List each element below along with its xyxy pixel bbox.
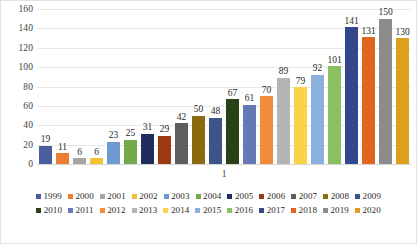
legend-label-2000: 2000 xyxy=(75,191,93,201)
legend-item-2016[interactable]: 2016 xyxy=(227,205,253,215)
bar-2004[interactable]: 25 xyxy=(122,9,139,164)
bar-2001[interactable]: 6 xyxy=(71,9,88,164)
legend-swatch-2002 xyxy=(132,194,137,199)
bar-rect-2004 xyxy=(124,140,136,164)
bar-value-2013: 89 xyxy=(279,67,289,77)
legend-item-1999[interactable]: 1999 xyxy=(36,191,62,201)
legend-label-2002: 2002 xyxy=(139,191,157,201)
legend-label-2009: 2009 xyxy=(363,191,381,201)
legend-swatch-2013 xyxy=(132,208,137,213)
bar-value-2019: 150 xyxy=(378,8,392,18)
legend-item-2002[interactable]: 2002 xyxy=(132,191,158,201)
legend-item-2015[interactable]: 2015 xyxy=(195,205,221,215)
legend-swatch-2015 xyxy=(195,208,200,213)
y-axis-tick-100: 100 xyxy=(18,62,33,72)
bar-value-2004: 25 xyxy=(126,129,136,139)
bar-2003[interactable]: 23 xyxy=(105,9,122,164)
bar-1999[interactable]: 19 xyxy=(37,9,54,164)
legend-label-1999: 1999 xyxy=(44,191,62,201)
bar-value-2015: 92 xyxy=(313,64,323,74)
bar-2019[interactable]: 150 xyxy=(377,9,394,164)
legend-item-2019[interactable]: 2019 xyxy=(323,205,349,215)
legend-item-2005[interactable]: 2005 xyxy=(227,191,253,201)
bar-rect-2012 xyxy=(260,96,272,164)
bar-2017[interactable]: 141 xyxy=(343,9,360,164)
legend-label-2014: 2014 xyxy=(171,205,189,215)
bar-2013[interactable]: 89 xyxy=(275,9,292,164)
legend-swatch-2012 xyxy=(100,208,105,213)
bar-rect-2016 xyxy=(328,66,340,164)
y-axis-tick-0: 0 xyxy=(28,159,33,169)
bar-rect-2010 xyxy=(226,99,238,164)
bar-2009[interactable]: 48 xyxy=(207,9,224,164)
bar-2015[interactable]: 92 xyxy=(309,9,326,164)
plot-area: 1911662325312942504867617089799210114113… xyxy=(37,9,411,164)
bar-2012[interactable]: 70 xyxy=(258,9,275,164)
bar-value-2008: 50 xyxy=(194,105,204,115)
legend-swatch-2003 xyxy=(164,194,169,199)
bar-value-2010: 67 xyxy=(228,89,238,99)
legend-item-2003[interactable]: 2003 xyxy=(164,191,190,201)
legend-swatch-2019 xyxy=(323,208,328,213)
legend-label-2008: 2008 xyxy=(331,191,349,201)
legend-item-2020[interactable]: 2020 xyxy=(355,205,381,215)
legend-item-2007[interactable]: 2007 xyxy=(291,191,317,201)
bar-rect-2018 xyxy=(362,37,374,164)
bar-value-2018: 131 xyxy=(361,27,375,37)
bar-2016[interactable]: 101 xyxy=(326,9,343,164)
legend-label-2004: 2004 xyxy=(203,191,221,201)
bar-value-2007: 42 xyxy=(177,113,187,123)
bar-2020[interactable]: 130 xyxy=(394,9,411,164)
legend-label-2019: 2019 xyxy=(331,205,349,215)
x-axis-label: 1 xyxy=(37,169,411,179)
legend-item-2017[interactable]: 2017 xyxy=(259,205,285,215)
bar-value-1999: 19 xyxy=(41,135,51,145)
chart-legend: 1999200020012002200320042005200620072008… xyxy=(1,189,416,217)
legend-label-2018: 2018 xyxy=(299,205,317,215)
legend-label-2011: 2011 xyxy=(76,205,94,215)
legend-label-2020: 2020 xyxy=(362,205,380,215)
bar-rect-2013 xyxy=(277,78,289,164)
bar-2002[interactable]: 6 xyxy=(88,9,105,164)
bar-rect-2005 xyxy=(141,134,153,164)
legend-item-2008[interactable]: 2008 xyxy=(323,191,349,201)
bar-value-2020: 130 xyxy=(395,28,409,38)
legend-item-2001[interactable]: 2001 xyxy=(100,191,126,201)
y-axis-tick-140: 140 xyxy=(18,23,33,33)
legend-swatch-2004 xyxy=(196,194,201,199)
legend-swatch-2020 xyxy=(355,208,360,213)
bar-2005[interactable]: 31 xyxy=(139,9,156,164)
bar-rect-2011 xyxy=(243,105,255,164)
bar-2006[interactable]: 29 xyxy=(156,9,173,164)
legend-swatch-2006 xyxy=(259,194,264,199)
bar-2011[interactable]: 61 xyxy=(241,9,258,164)
legend-label-2007: 2007 xyxy=(299,191,317,201)
legend-item-2000[interactable]: 2000 xyxy=(68,191,94,201)
legend-swatch-2008 xyxy=(323,194,328,199)
bar-2008[interactable]: 50 xyxy=(190,9,207,164)
bar-2010[interactable]: 67 xyxy=(224,9,241,164)
legend-item-2009[interactable]: 2009 xyxy=(355,191,381,201)
bar-2007[interactable]: 42 xyxy=(173,9,190,164)
legend-item-2018[interactable]: 2018 xyxy=(291,205,317,215)
legend-label-2012: 2012 xyxy=(107,205,125,215)
bar-2018[interactable]: 131 xyxy=(360,9,377,164)
legend-item-2006[interactable]: 2006 xyxy=(259,191,285,201)
legend-item-2004[interactable]: 2004 xyxy=(196,191,222,201)
legend-item-2013[interactable]: 2013 xyxy=(132,205,158,215)
legend-swatch-2007 xyxy=(291,194,296,199)
legend-swatch-2018 xyxy=(291,208,296,213)
legend-label-2016: 2016 xyxy=(235,205,253,215)
bar-value-2003: 23 xyxy=(109,131,119,141)
legend-item-2014[interactable]: 2014 xyxy=(163,205,189,215)
legend-item-2010[interactable]: 2010 xyxy=(36,205,62,215)
legend-item-2012[interactable]: 2012 xyxy=(100,205,126,215)
legend-item-2011[interactable]: 2011 xyxy=(68,205,94,215)
bar-value-2000: 11 xyxy=(58,143,67,153)
bar-2000[interactable]: 11 xyxy=(54,9,71,164)
bar-rect-2000 xyxy=(56,153,68,164)
bar-rect-2006 xyxy=(158,136,170,164)
bar-value-2017: 141 xyxy=(344,17,358,27)
legend-label-2010: 2010 xyxy=(44,205,62,215)
bar-2014[interactable]: 79 xyxy=(292,9,309,164)
